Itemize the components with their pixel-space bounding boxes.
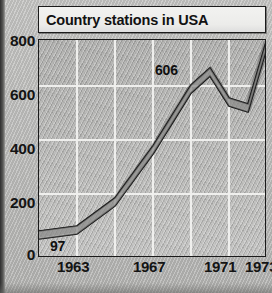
page-title: Country stations in USA <box>46 12 208 28</box>
x-tick-label-1963: 1963 <box>57 258 89 275</box>
annotation-peak-606: 606 <box>155 62 178 78</box>
y-tick-label-600: 600 <box>10 86 35 104</box>
chart-figure: Country stations in USA 800 600 400 200 … <box>0 0 272 293</box>
y-tick-label-200: 200 <box>10 194 35 212</box>
scan-bottom-shadow <box>0 283 272 293</box>
plot-area <box>38 39 266 257</box>
y-axis: 800 600 400 200 0 <box>0 0 38 293</box>
chart-title-box: Country stations in USA <box>38 6 266 33</box>
x-axis: 1963 1967 1971 1973 <box>0 258 272 282</box>
y-tick-label-800: 800 <box>10 32 35 50</box>
chart-plot-svg <box>39 40 266 257</box>
y-tick-label-400: 400 <box>10 140 35 158</box>
annotation-start-97: 97 <box>50 238 65 254</box>
x-tick-label-1967: 1967 <box>133 258 165 275</box>
x-tick-label-1971: 1971 <box>204 258 236 275</box>
x-tick-label-1973: 1973 <box>245 258 272 275</box>
